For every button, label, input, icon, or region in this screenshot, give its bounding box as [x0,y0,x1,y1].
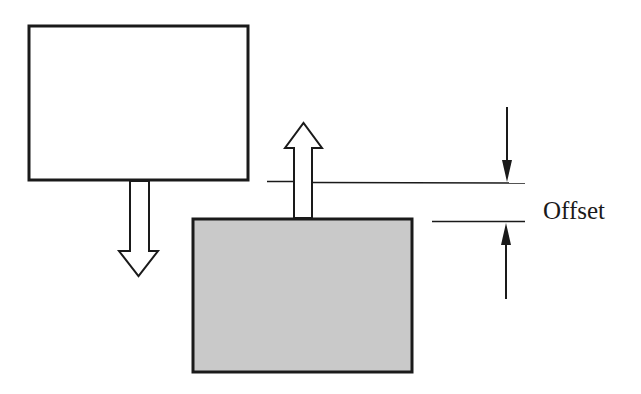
upper-reference-line-right [312,183,525,184]
dimension-arrow-up-icon [501,223,511,299]
offset-diagram: Offset [0,0,641,394]
up-arrow-icon [285,123,322,218]
offset-label: Offset [543,197,605,224]
upper-block [29,26,248,180]
lower-block [193,219,412,372]
dimension-arrow-down-icon [502,107,512,182]
down-arrow-icon [119,181,158,276]
